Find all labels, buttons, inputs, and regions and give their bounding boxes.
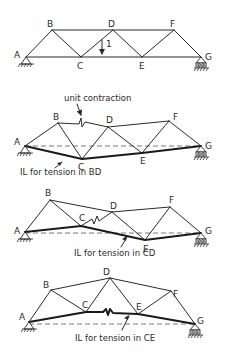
roller-support-icon [188, 324, 203, 338]
node-label-f: F [173, 112, 178, 122]
node-label-g: G [205, 141, 212, 151]
node-label-f: F [170, 19, 175, 29]
node-label-e: E [136, 302, 142, 312]
node-label-c: C [79, 213, 85, 223]
annotation-arrow [77, 104, 81, 115]
node-label-b: B [47, 19, 53, 29]
panel-il-bd: unit contraction IL for tension in BD [14, 93, 212, 177]
node-label-g: G [197, 316, 204, 326]
node-label-b: B [53, 112, 59, 122]
panel-il-cd: IL for tension in CD A B C D E F G [14, 188, 212, 258]
influence-line-diagram: 1 A B C D E F G [0, 0, 225, 364]
truss-original: 1 A B C D E F G [14, 19, 212, 71]
node-label-c: C [78, 162, 84, 172]
node-label-a: A [19, 312, 26, 322]
node-label-c: C [77, 61, 83, 71]
panel-il-ce: IL for tension in CE A B C D E F G [19, 267, 204, 343]
node-label-e: E [143, 244, 149, 254]
node-label-d: D [108, 19, 115, 29]
influence-line [29, 309, 195, 324]
caption: IL for tension in BD [20, 167, 102, 177]
node-label-b: B [43, 280, 49, 290]
node-label-d: D [106, 115, 113, 125]
unit-contraction-annotation: unit contraction [64, 93, 131, 103]
node-label-f: F [169, 195, 174, 205]
load-label: 1 [106, 39, 112, 49]
pin-support-icon [21, 322, 37, 332]
truss-members [26, 30, 201, 57]
node-label-b: B [45, 188, 51, 198]
node-label-c: C [82, 300, 88, 310]
node-label-e: E [139, 61, 145, 71]
node-label-a: A [14, 137, 21, 147]
caption: IL for tension in CE [75, 333, 155, 343]
node-label-a: A [14, 50, 21, 60]
node-label-a: A [14, 226, 21, 236]
influence-line [25, 146, 201, 159]
node-label-d: D [110, 201, 117, 211]
node-label-d: D [103, 267, 110, 277]
node-label-g: G [205, 226, 212, 236]
node-label-e: E [140, 156, 146, 166]
node-label-g: G [205, 52, 212, 62]
node-label-f: F [173, 289, 178, 299]
pin-support-icon [18, 57, 34, 67]
